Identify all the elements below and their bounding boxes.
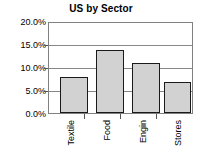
x-axis-label-engin: Engin — [139, 120, 148, 143]
plot-area — [48, 22, 193, 114]
bar-engin — [132, 63, 160, 113]
bar-stores — [164, 82, 191, 113]
y-axis-tick-label-10: 10.0% — [2, 64, 46, 73]
x-axis-tick-1 — [84, 114, 85, 119]
x-axis-label-food: Food — [103, 120, 112, 141]
chart-title: US by Sector — [0, 3, 202, 14]
bar-textile — [60, 77, 88, 113]
y-axis-tick-label-15: 15.0% — [2, 41, 46, 50]
x-axis-tick-2 — [120, 114, 121, 119]
x-axis-label-textile: Textile — [67, 120, 76, 146]
y-axis-tick-label-0: 0.0% — [2, 110, 46, 119]
y-axis-tick-label-20: 20.0% — [2, 18, 46, 27]
x-axis-label-stores: Stores — [174, 120, 183, 146]
bar-chart: US by Sector 20.0% 15.0% 10.0% 5.0% 0.0%… — [0, 0, 202, 164]
bar-food — [96, 50, 124, 113]
gridline-15 — [49, 45, 192, 46]
y-axis-tick-label-5: 5.0% — [2, 87, 46, 96]
x-axis-tick-3 — [156, 114, 157, 119]
